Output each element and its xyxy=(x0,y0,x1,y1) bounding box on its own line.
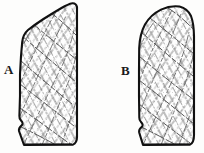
specimen-a-hatching xyxy=(15,0,85,153)
specimen-b-group xyxy=(133,0,203,153)
figure-container: A B xyxy=(0,0,204,153)
specimen-b-label: B xyxy=(121,64,130,77)
specimen-a-label: A xyxy=(4,63,13,76)
artifact-illustration xyxy=(0,0,204,153)
specimen-a-group xyxy=(15,0,85,153)
